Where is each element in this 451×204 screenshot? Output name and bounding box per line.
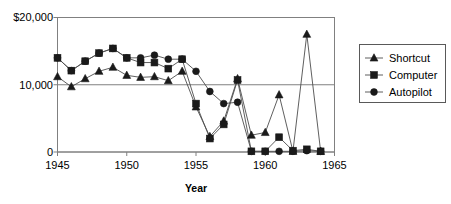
data-point-shortcut-1946 [67, 83, 75, 90]
data-point-autopilot-1955 [193, 68, 200, 75]
data-point-computer-1957 [220, 121, 227, 128]
x-tick-label-1950: 1950 [115, 159, 139, 171]
x-axis-tick-labels: 19451950195519601965 [45, 159, 346, 171]
series-markers-computer [54, 45, 324, 155]
data-point-computer-1955 [193, 100, 200, 107]
data-point-computer-1952 [151, 59, 158, 66]
legend-label-autopilot: Autopilot [389, 86, 432, 98]
data-point-shortcut-1960 [261, 128, 269, 135]
data-point-autopilot-1959 [248, 148, 255, 155]
data-point-shortcut-1947 [81, 74, 89, 81]
data-point-autopilot-1949 [110, 45, 117, 52]
data-point-autopilot-1951 [137, 54, 144, 61]
chart-legend: ShortcutComputerAutopilot [360, 45, 446, 103]
series-markers [54, 30, 325, 155]
data-point-shortcut-1952 [151, 72, 159, 79]
legend-entries: ShortcutComputerAutopilot [365, 52, 438, 98]
x-tick-label-1965: 1965 [322, 159, 346, 171]
x-tick-label-1960: 1960 [253, 159, 277, 171]
data-point-autopilot-1945 [54, 54, 61, 61]
series-markers-shortcut [54, 30, 325, 154]
y-axis-ticks [54, 18, 58, 153]
data-point-shortcut-1949 [109, 63, 117, 70]
y-tick-label-0: 0 [47, 146, 53, 158]
data-point-shortcut-1963 [303, 30, 311, 37]
data-point-autopilot-1953 [165, 56, 172, 63]
x-tick-label-1945: 1945 [45, 159, 69, 171]
data-point-autopilot-1962 [290, 148, 297, 155]
data-point-autopilot-1958 [234, 99, 241, 106]
data-point-autopilot-1956 [206, 88, 213, 95]
y-tick-label-10000: 10,000 [19, 79, 53, 91]
data-point-autopilot-1950 [123, 54, 130, 61]
data-point-autopilot-1964 [317, 148, 324, 155]
y-tick-label-20000: $20,000 [13, 11, 53, 23]
series-markers-autopilot [54, 45, 324, 155]
x-axis-title: Year [185, 182, 207, 194]
data-point-shortcut-1961 [275, 91, 283, 98]
data-point-autopilot-1957 [220, 100, 227, 107]
line-chart: $20,000 10,000 0 19451950195519601965 Ye… [0, 0, 451, 204]
data-point-autopilot-1954 [179, 56, 186, 63]
data-point-computer-1961 [276, 134, 283, 141]
data-point-autopilot-1952 [151, 52, 158, 59]
legend-marker-square-icon [371, 72, 378, 79]
gridlines [58, 18, 335, 153]
data-point-autopilot-1947 [82, 58, 89, 65]
data-point-computer-1958 [234, 77, 241, 84]
legend-marker-circle-icon [371, 89, 378, 96]
data-point-shortcut-1950 [123, 71, 131, 78]
data-point-autopilot-1948 [96, 50, 103, 57]
chart-container: $20,000 10,000 0 19451950195519601965 Ye… [0, 0, 451, 204]
data-point-computer-1956 [206, 135, 213, 142]
data-point-autopilot-1946 [68, 67, 75, 74]
data-point-autopilot-1961 [276, 148, 283, 155]
data-point-shortcut-1945 [54, 72, 62, 79]
legend-label-computer: Computer [389, 69, 438, 81]
x-tick-label-1955: 1955 [184, 159, 208, 171]
data-point-autopilot-1963 [303, 147, 310, 154]
legend-label-shortcut: Shortcut [389, 52, 430, 64]
data-point-computer-1953 [165, 65, 172, 72]
data-point-autopilot-1960 [262, 148, 269, 155]
